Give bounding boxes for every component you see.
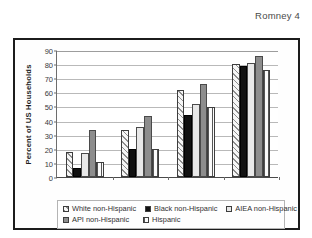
bar	[207, 107, 215, 177]
x-axis-tick-mark	[279, 177, 280, 180]
y-axis-tick-label: 0	[49, 174, 53, 183]
bar	[200, 84, 208, 177]
legend-item-aiea-non-hispanic: AIEA non-Hispanic	[226, 205, 297, 212]
bar	[247, 63, 255, 177]
y-axis-tick-mark	[54, 107, 57, 108]
legend-item-black-non-hispanic: Black non-Hispanic	[145, 205, 217, 212]
legend-row: API non-Hispanic Hispanic	[63, 216, 279, 223]
bar-group	[232, 51, 270, 177]
y-axis-tick-label: 60	[45, 89, 53, 98]
bar	[66, 152, 74, 177]
legend-swatch-icon	[226, 206, 232, 212]
legend-swatch-icon	[143, 217, 149, 223]
legend-item-label: White non-Hispanic	[72, 205, 136, 212]
x-axis-tick-mark	[224, 177, 225, 180]
y-axis-tick-label: 20	[45, 145, 53, 154]
bar	[255, 56, 263, 177]
y-axis-tick-label: 40	[45, 117, 53, 126]
legend-swatch-icon	[145, 206, 151, 212]
bar	[89, 130, 97, 177]
bar	[81, 153, 89, 177]
chart-legend: White non-Hispanic Black non-Hispanic AI…	[57, 200, 285, 229]
y-axis-tick-mark	[54, 163, 57, 164]
y-axis-title: Percent of US Households	[22, 51, 34, 178]
chart-figure-frame: Percent of US Households 010203040506070…	[13, 38, 300, 230]
bar	[129, 149, 137, 177]
y-axis-tick-mark	[54, 135, 57, 136]
y-axis-tick-mark	[54, 149, 57, 150]
plot-area: 0102030405060708090 Under $15,00015,000–…	[56, 51, 278, 178]
page-header-label: Romney 4	[255, 10, 300, 21]
bar-group	[66, 51, 104, 177]
legend-item-label: Hispanic	[152, 216, 180, 223]
x-axis-tick-mark	[113, 177, 114, 180]
chart-figure-inner: Percent of US Households 010203040506070…	[15, 40, 298, 228]
bar	[192, 104, 200, 177]
y-axis-tick-mark	[54, 178, 57, 179]
legend-item-label: AIEA non-Hispanic	[235, 205, 297, 212]
y-axis-tick-label: 80	[45, 61, 53, 70]
bar	[177, 90, 185, 177]
bar	[152, 149, 160, 177]
y-axis-tick-label: 30	[45, 131, 53, 140]
bar	[73, 168, 81, 177]
bar	[240, 66, 248, 177]
bar	[184, 115, 192, 177]
legend-swatch-icon	[63, 206, 69, 212]
y-axis-tick-mark	[54, 79, 57, 80]
legend-item-label: Black non-Hispanic	[154, 205, 217, 212]
y-axis-tick-label: 70	[45, 75, 53, 84]
bar	[263, 70, 271, 177]
bar	[232, 64, 240, 177]
bar	[121, 130, 129, 177]
y-axis-tick-mark	[54, 65, 57, 66]
bar	[96, 162, 104, 177]
y-axis-tick-label: 90	[45, 47, 53, 56]
legend-swatch-icon	[63, 217, 69, 223]
bar-group	[177, 51, 215, 177]
legend-item-white-non-hispanic: White non-Hispanic	[63, 205, 136, 212]
y-axis-tick-label: 10	[45, 159, 53, 168]
y-axis-tick-label: 50	[45, 103, 53, 112]
bar-group	[121, 51, 159, 177]
y-axis-tick-mark	[54, 51, 57, 52]
y-axis-title-text: Percent of US Households	[24, 64, 33, 164]
legend-item-api-non-hispanic: API non-Hispanic	[63, 216, 129, 223]
y-axis-tick-mark	[54, 121, 57, 122]
bar	[136, 127, 144, 177]
y-axis-tick-mark	[54, 93, 57, 94]
bar	[144, 116, 152, 177]
legend-row: White non-Hispanic Black non-Hispanic AI…	[63, 205, 279, 212]
x-axis-tick-mark	[168, 177, 169, 180]
legend-item-hispanic: Hispanic	[143, 216, 180, 223]
legend-item-label: API non-Hispanic	[72, 216, 129, 223]
